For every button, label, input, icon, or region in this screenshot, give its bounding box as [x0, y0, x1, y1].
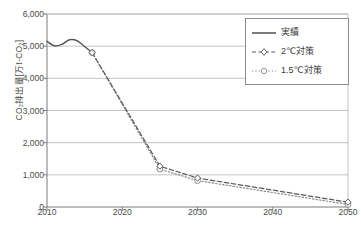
- dashed-line-diamond-icon: [251, 46, 277, 58]
- legend-item-2c: 2℃対策: [246, 42, 348, 61]
- solid-line-icon: [251, 27, 277, 39]
- x-axis-tick-label: 2040: [263, 207, 282, 217]
- legend-label-2c: 2℃対策: [281, 47, 314, 56]
- x-axis-tick-label: 2050: [339, 207, 358, 217]
- x-axis-tick-label: 2010: [38, 207, 57, 217]
- legend-label-1p5c: 1.5℃対策: [281, 66, 322, 75]
- x-axis-tick-label: 2020: [113, 207, 132, 217]
- x-axis-tick-label: 2030: [188, 207, 207, 217]
- dotted-line-circle-icon: [251, 65, 277, 77]
- legend-item-actual: 実績: [246, 23, 348, 42]
- legend-item-1p5c: 1.5℃対策: [246, 61, 348, 80]
- legend-label-actual: 実績: [281, 28, 299, 37]
- chart-legend: 実績 2℃対策 1.5℃対策: [245, 18, 349, 85]
- co2-emission-projection-chart: CO₂排出量[万t-CO₂] 01,0002,0003,0004,0005,00…: [0, 0, 361, 240]
- x-axis-tick-labels: 20102020203020402050: [0, 207, 361, 223]
